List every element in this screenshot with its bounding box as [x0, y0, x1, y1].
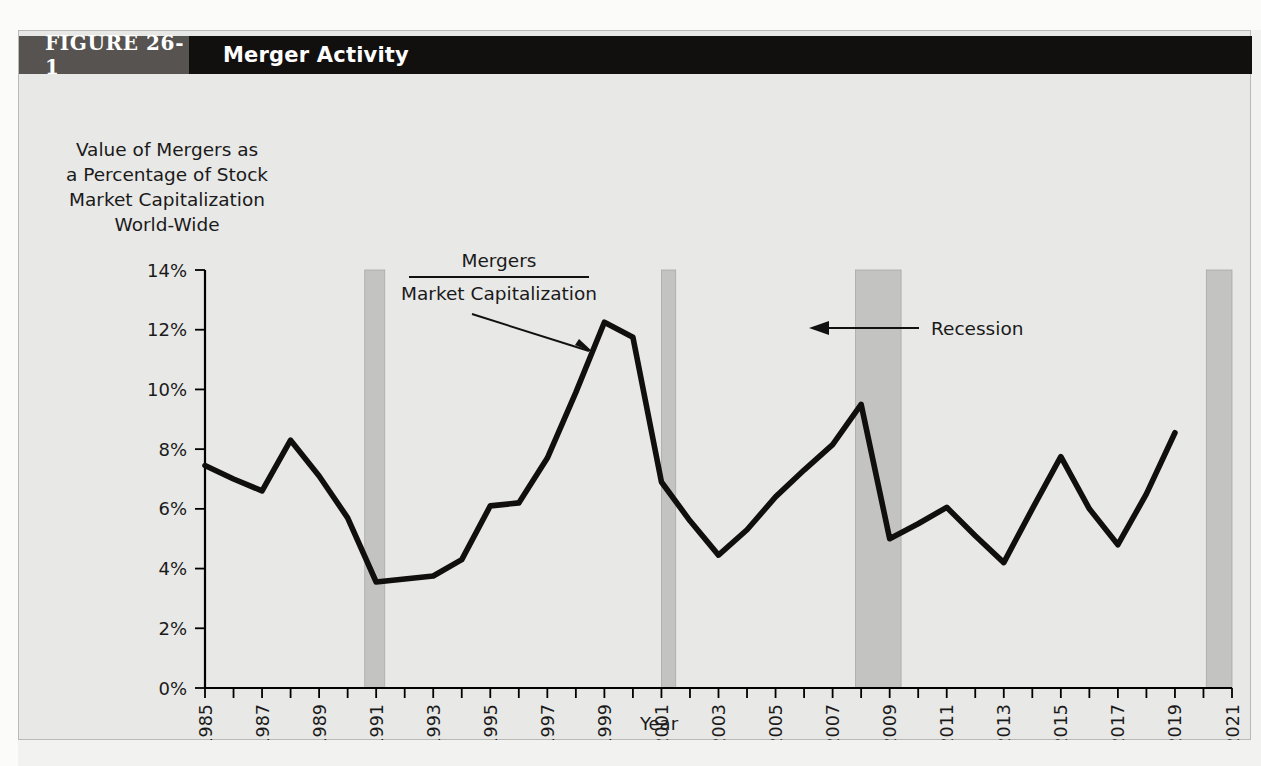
y-axis-title-line-2: a Percentage of Stock	[66, 164, 268, 185]
y-axis-ticks-group: 0%2%4%6%8%10%12%14%	[147, 260, 205, 699]
x-axis-tick-label: 1991	[367, 704, 387, 740]
x-axis-tick-label: 2011	[937, 704, 957, 740]
figure-container: FIGURE 26-1 Merger Activity 0%2%4%6%8%10…	[18, 30, 1251, 740]
y-axis-title-line-3: Market Capitalization	[69, 189, 265, 210]
x-axis-tick-label: 2009	[880, 704, 900, 740]
x-axis-tick-label: 2013	[994, 704, 1014, 740]
x-axis-tick-label: 2021	[1223, 704, 1243, 740]
x-axis-tick-label: 2019	[1165, 704, 1185, 740]
x-axis-tick-label: 1995	[481, 704, 501, 740]
x-axis-tick-label: 1987	[253, 704, 273, 740]
figure-number-label: FIGURE 26-1	[19, 36, 189, 74]
x-axis-tick-label: 1999	[595, 704, 615, 740]
recession-band	[365, 270, 385, 688]
x-axis-tick-label: 2015	[1051, 704, 1071, 740]
paper-margin-top	[0, 0, 1261, 30]
y-axis-tick-label: 4%	[158, 558, 187, 579]
y-axis-title: Value of Mergers as a Percentage of Stoc…	[66, 139, 268, 235]
x-axis-tick-label: 2003	[709, 704, 729, 740]
series-annotation-numerator: Mergers	[462, 250, 537, 271]
x-axis-tick-label: 2017	[1108, 704, 1128, 740]
x-axis-ticks-group: 1985198719891991199319951997199920012003…	[196, 688, 1243, 740]
recession-band	[1206, 270, 1232, 688]
series-annotation-denominator: Market Capitalization	[401, 283, 597, 304]
series-annotation: Mergers Market Capitalization	[401, 250, 597, 353]
x-axis-tick-label: 2007	[823, 704, 843, 740]
page-background: FIGURE 26-1 Merger Activity 0%2%4%6%8%10…	[0, 0, 1261, 766]
recession-arrow-head	[809, 321, 829, 335]
x-axis-tick-label: 1993	[424, 704, 444, 740]
y-axis-tick-label: 14%	[147, 260, 187, 281]
figure-title: Merger Activity	[189, 36, 1252, 74]
x-axis-title: Year	[639, 713, 679, 734]
series-annotation-arrow-head	[575, 339, 594, 353]
merger-ratio-series-line	[205, 322, 1175, 582]
figure-header-bar: FIGURE 26-1 Merger Activity	[19, 36, 1252, 74]
y-axis-title-line-4: World-Wide	[114, 214, 219, 235]
x-axis-tick-label: 1985	[196, 704, 216, 740]
recession-annotation: Recession	[809, 318, 1023, 339]
y-axis-tick-label: 10%	[147, 379, 187, 400]
x-axis-tick-label: 1989	[310, 704, 330, 740]
chart-plot-area: 0%2%4%6%8%10%12%14% 19851987198919911993…	[19, 74, 1252, 740]
x-axis-tick-label: 2005	[766, 704, 786, 740]
recession-label: Recession	[931, 318, 1023, 339]
y-axis-tick-label: 12%	[147, 319, 187, 340]
y-axis-tick-label: 8%	[158, 439, 187, 460]
x-axis-tick-label: 1997	[538, 704, 558, 740]
y-axis-tick-label: 0%	[158, 678, 187, 699]
merger-activity-line-chart: 0%2%4%6%8%10%12%14% 19851987198919911993…	[19, 74, 1252, 740]
paper-margin-left	[0, 0, 18, 766]
y-axis-title-line-1: Value of Mergers as	[76, 139, 258, 160]
y-axis-tick-label: 2%	[158, 618, 187, 639]
y-axis-tick-label: 6%	[158, 498, 187, 519]
series-annotation-arrow-shaft	[472, 314, 589, 351]
